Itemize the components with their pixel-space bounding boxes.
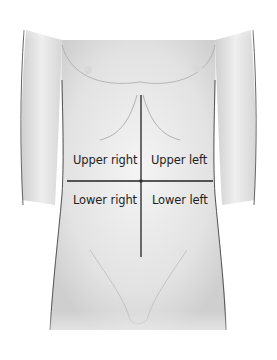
torso-illustration [0,0,277,360]
umbilicus [139,179,143,183]
quadrant-label-lower-right: Lower right [73,193,137,207]
quadrant-label-lower-left: Lower left [152,193,208,207]
abdomen-quadrant-diagram: Upper right Upper left Lower right Lower… [0,0,277,360]
quadrant-label-upper-left: Upper left [151,153,207,167]
quadrant-label-upper-right: Upper right [73,153,137,167]
